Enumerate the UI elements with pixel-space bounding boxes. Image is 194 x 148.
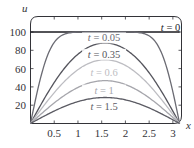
y-axis-label: u xyxy=(22,2,28,14)
x-tick-label: 0.5 xyxy=(47,127,61,139)
curve-label: t = 1 xyxy=(94,85,113,96)
x-tick-label: 1 xyxy=(75,127,81,139)
curve-label: t = 0 xyxy=(161,22,180,33)
y-tick-label: 40 xyxy=(15,81,27,93)
curve-label: t = 0.05 xyxy=(88,32,120,43)
x-axis-label: x xyxy=(185,119,191,131)
y-tick-label: 80 xyxy=(15,44,27,56)
curve-label: t = 1.5 xyxy=(90,101,117,112)
heat-equation-chart: 20406080100 0.511.522.53 t = 0t = 0.05t … xyxy=(0,0,194,148)
x-tick-label: 3 xyxy=(170,127,176,139)
curve-label: t = 0.35 xyxy=(88,49,120,60)
x-tick-label: 2.5 xyxy=(142,127,156,139)
x-tick-label: 1.5 xyxy=(95,127,109,139)
y-tick-label: 60 xyxy=(15,63,27,75)
y-tick-label: 20 xyxy=(15,99,27,111)
curve-label: t = 0.6 xyxy=(90,67,117,78)
y-tick-label: 100 xyxy=(10,26,27,38)
x-tick-label: 2 xyxy=(123,127,129,139)
